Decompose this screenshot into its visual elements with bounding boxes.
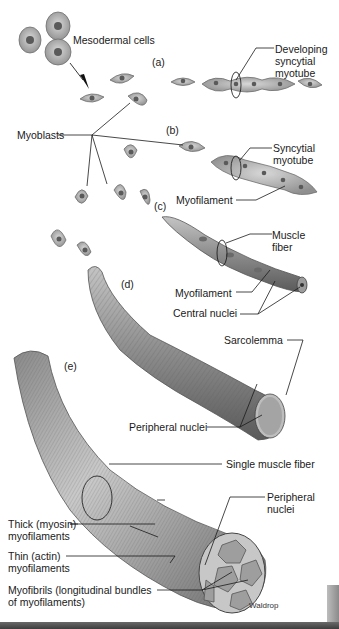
label-myofibrils-2: of myofilaments) bbox=[8, 596, 85, 608]
label-myofilament-b: Myofilament bbox=[176, 194, 233, 206]
label-sarcolemma: Sarcolemma bbox=[224, 334, 283, 346]
label-peripheral-nuclei-e-2: nuclei bbox=[267, 503, 294, 515]
stage-label-e: (e) bbox=[64, 360, 77, 372]
label-myoblasts: Myoblasts bbox=[17, 129, 64, 141]
label-thin-myofilaments-2: myofilaments bbox=[8, 562, 70, 574]
label-mesodermal-cells: Mesodermal cells bbox=[73, 34, 155, 46]
label-central-nuclei: Central nuclei bbox=[173, 307, 237, 319]
muscle-development-diagram: (a) (b) (c) (d) (e) Mesodermal cells Dev… bbox=[0, 0, 339, 629]
label-muscle-fiber-1: Muscle bbox=[272, 229, 305, 241]
page-bottom-edge bbox=[0, 622, 339, 629]
label-muscle-fiber-2: fiber bbox=[272, 241, 292, 253]
label-syncytial-myotube-1: Syncytial bbox=[273, 142, 315, 154]
label-syncytial-myotube-2: myotube bbox=[273, 154, 313, 166]
stage-label-a: (a) bbox=[152, 56, 165, 68]
label-single-muscle-fiber: Single muscle fiber bbox=[226, 458, 315, 470]
label-developing-myotube-3: myotube bbox=[275, 67, 315, 79]
stage-label-d: (d) bbox=[121, 278, 134, 290]
differentiation-arrow-icon bbox=[70, 63, 89, 89]
label-thick-myofilaments-2: myofilaments bbox=[8, 530, 70, 542]
label-myofibrils-1: Myofibrils (longitudinal bundles bbox=[8, 584, 152, 596]
stage-label-b: (b) bbox=[166, 124, 179, 136]
label-developing-myotube-1: Developing bbox=[275, 43, 328, 55]
label-peripheral-nuclei-d: Peripheral nuclei bbox=[129, 421, 207, 433]
page-edge-texture bbox=[327, 585, 339, 622]
stage-label-c: (c) bbox=[154, 200, 166, 212]
artist-credit: Waldrop bbox=[249, 600, 279, 612]
label-thin-myofilaments-1: Thin (actin) bbox=[8, 550, 61, 562]
mesodermal-cells bbox=[19, 12, 71, 65]
label-developing-myotube-2: syncytial bbox=[275, 55, 315, 67]
label-thick-myofilaments-1: Thick (myosin) bbox=[8, 518, 76, 530]
label-peripheral-nuclei-e-1: Peripheral bbox=[267, 491, 315, 503]
label-myofilament-c: Myofilament bbox=[175, 287, 232, 299]
